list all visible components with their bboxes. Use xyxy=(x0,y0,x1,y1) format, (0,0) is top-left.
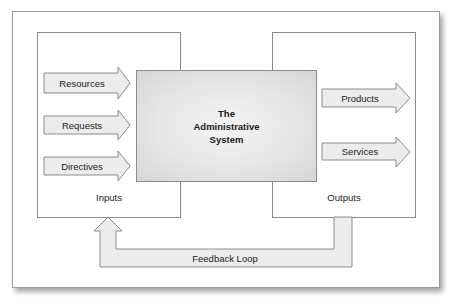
output-label-products: Products xyxy=(341,93,379,104)
diagram-canvas: Inputs Outputs Feedback Loop Resources R… xyxy=(0,0,455,304)
center-title-line-2: Administrative xyxy=(194,120,260,133)
input-label-resources: Resources xyxy=(59,78,105,89)
output-arrow-services: Services xyxy=(322,137,410,167)
feedback-loop-label: Feedback Loop xyxy=(192,253,258,264)
input-arrow-directives: Directives xyxy=(44,151,130,181)
output-label-services: Services xyxy=(342,146,379,157)
administrative-system-title: The Administrative System xyxy=(194,107,260,146)
output-arrow-products: Products xyxy=(322,83,410,113)
center-title-line-1: The xyxy=(194,107,260,120)
feedback-loop-arrow: Feedback Loop xyxy=(94,217,352,267)
input-label-requests: Requests xyxy=(62,120,102,131)
input-arrow-requests: Requests xyxy=(44,110,130,140)
input-arrow-resources: Resources xyxy=(44,67,130,99)
input-label-directives: Directives xyxy=(61,161,103,172)
center-title-line-3: System xyxy=(194,133,260,146)
administrative-system-box: The Administrative System xyxy=(136,70,317,182)
